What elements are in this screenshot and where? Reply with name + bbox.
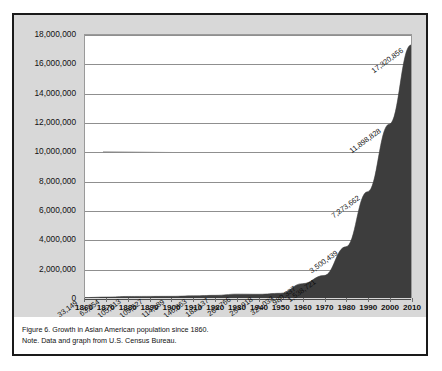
x-axis-tick (281, 298, 282, 302)
x-axis-tick-label: 1930 (228, 303, 246, 312)
x-axis-tick-label: 1860 (75, 303, 93, 312)
x-axis-tick (346, 298, 347, 302)
y-axis-tick-label: 10,000,000 (34, 146, 76, 156)
chart-panel: 02,000,0004,000,0006,000,0008,000,00010,… (14, 15, 426, 317)
x-axis-tick-label: 1870 (97, 303, 115, 312)
figure-note: Note. Data and graph from U.S. Census Bu… (22, 335, 426, 346)
x-axis-tick-label: 1980 (337, 303, 355, 312)
x-axis-tick-label: 1890 (141, 303, 159, 312)
x-axis-tick (412, 298, 413, 302)
x-axis-tick (325, 298, 326, 302)
y-axis-tick-label: 0 (71, 293, 76, 303)
figure-frame: 02,000,0004,000,0006,000,0008,000,00010,… (12, 13, 428, 356)
x-axis-tick-label: 1920 (206, 303, 224, 312)
x-axis-tick-label: 1960 (294, 303, 312, 312)
y-axis: 02,000,0004,000,0006,000,0008,000,00010,… (14, 34, 80, 298)
y-axis-tick-label: 12,000,000 (34, 117, 76, 127)
y-axis-tick-label: 18,000,000 (34, 29, 76, 39)
x-axis: 1860187018801890190019101920193019401950… (84, 303, 412, 317)
gridline (85, 299, 411, 300)
plot-area (84, 34, 412, 298)
x-axis-tick (150, 298, 151, 302)
x-axis-tick-label: 2010 (403, 303, 421, 312)
x-axis-tick-label: 1970 (316, 303, 334, 312)
y-axis-tick-label: 2,000,000 (39, 264, 76, 274)
x-axis-tick (128, 298, 129, 302)
x-axis-tick (259, 298, 260, 302)
area-fill-path (85, 45, 411, 298)
x-axis-tick-label: 1940 (250, 303, 268, 312)
x-axis-tick-label: 1900 (162, 303, 180, 312)
x-axis-tick-label: 1880 (119, 303, 137, 312)
y-axis-tick-label: 16,000,000 (34, 58, 76, 68)
x-axis-tick-label: 2000 (381, 303, 399, 312)
y-axis-tick-label: 8,000,000 (39, 176, 76, 186)
y-axis-tick-label: 14,000,000 (34, 88, 76, 98)
x-axis-tick (303, 298, 304, 302)
x-axis-tick (84, 298, 85, 302)
x-axis-tick-label: 1990 (359, 303, 377, 312)
x-axis-tick (237, 298, 238, 302)
y-axis-tick-label: 6,000,000 (39, 205, 76, 215)
caption-panel: Figure 6. Growth in Asian American popul… (14, 317, 426, 354)
x-axis-tick (390, 298, 391, 302)
x-axis-tick (171, 298, 172, 302)
x-axis-tick (106, 298, 107, 302)
area-series (85, 35, 411, 298)
y-axis-tick-label: 4,000,000 (39, 234, 76, 244)
x-axis-tick-label: 1950 (272, 303, 290, 312)
x-axis-tick (215, 298, 216, 302)
x-axis-tick-label: 1910 (184, 303, 202, 312)
figure-caption: Figure 6. Growth in Asian American popul… (22, 324, 426, 335)
x-axis-tick (368, 298, 369, 302)
x-axis-tick (193, 298, 194, 302)
